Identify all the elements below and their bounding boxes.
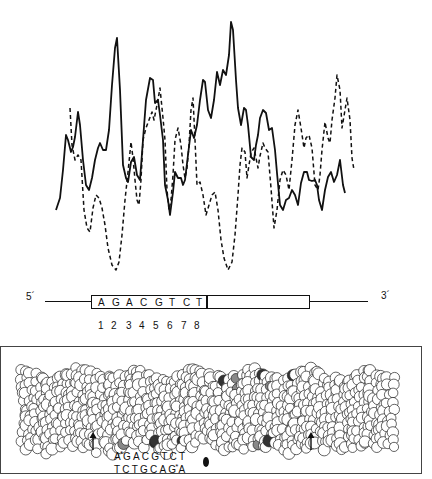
top-strand-sequence: A*GACGTCT (114, 449, 187, 462)
position-1: 1 (98, 320, 104, 331)
bottom-strand-sequence: TCTGCAG*A (114, 462, 187, 475)
bottom-strand-last-base: A (178, 464, 187, 475)
sequence-box-divider (206, 295, 208, 309)
position-2: 2 (111, 320, 117, 331)
base-7: C (183, 297, 190, 308)
arrow-up-icon (88, 432, 98, 450)
base-6: T (169, 297, 175, 308)
position-7: 7 (181, 320, 187, 331)
position-6: 6 (167, 320, 173, 331)
position-4: 4 (139, 320, 145, 331)
base-2: G (112, 297, 120, 308)
five-prime-label: 5´ (26, 291, 35, 302)
base-4: C (140, 297, 147, 308)
dyad-axis-symbol-icon (202, 456, 210, 468)
arrow-up-icon (306, 432, 316, 450)
position-3: 3 (126, 320, 132, 331)
three-prime-label: 3´ (381, 290, 390, 301)
base-1: A (98, 297, 105, 308)
position-8: 8 (194, 320, 200, 331)
top-strand-rest: GACGTCT (123, 451, 187, 462)
bottom-strand-first: TCTGCAG (114, 464, 178, 475)
dashed-profile-line (70, 75, 354, 270)
profile-line-plot (0, 0, 432, 280)
backbone-line-right (310, 301, 368, 302)
base-3: A (126, 297, 133, 308)
dna-space-filling-model (1, 347, 421, 473)
backbone-line-left (45, 301, 91, 302)
base-8: T (196, 297, 202, 308)
position-5: 5 (153, 320, 159, 331)
solid-profile-line (56, 22, 345, 215)
space-filling-model-panel (0, 346, 422, 474)
base-5: G (155, 297, 163, 308)
